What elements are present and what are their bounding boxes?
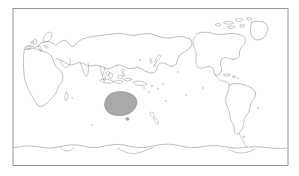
map-frame-border <box>13 9 288 166</box>
world-map-figure <box>0 0 299 176</box>
world-map-svg <box>0 0 299 176</box>
highlighted-region-tasmania <box>126 118 129 121</box>
